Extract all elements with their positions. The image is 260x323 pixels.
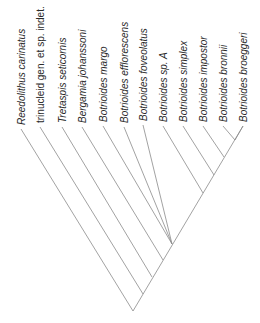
branch [40, 127, 143, 294]
cladogram: Reedolithus carinatustrinucleid gen. et … [0, 0, 260, 323]
branch [235, 126, 243, 140]
taxon-label: Botrioides sp. A [158, 52, 169, 122]
branch-spine [133, 126, 243, 311]
branch [223, 126, 235, 140]
taxon-label: Botrioides impostor [198, 36, 209, 122]
taxon-labels: Reedolithus carinatustrinucleid gen. et … [16, 6, 249, 125]
taxon-label: Tretaspis seticornis [57, 38, 68, 123]
taxon-label: Reedolithus carinatus [16, 29, 27, 125]
taxon-label: Botrioides simplex [178, 40, 189, 122]
branch [62, 127, 152, 277]
branches [21, 125, 243, 311]
taxon-label: Botrioides foveolatus [138, 28, 149, 121]
branch [203, 126, 224, 157]
taxon-label: Botrioides efflorescens [119, 22, 130, 123]
branch [103, 126, 172, 244]
branch [21, 129, 133, 311]
taxon-label: Botrioides bronnii [218, 44, 229, 122]
taxon-label: Bergamia johanssoni [77, 29, 88, 123]
taxon-label: Botrioides margo [98, 46, 109, 122]
taxon-label: Botrioides broeggeri [238, 32, 249, 122]
branch [163, 126, 203, 193]
taxon-label: trinucleid gen. et sp. indet. [35, 6, 46, 123]
